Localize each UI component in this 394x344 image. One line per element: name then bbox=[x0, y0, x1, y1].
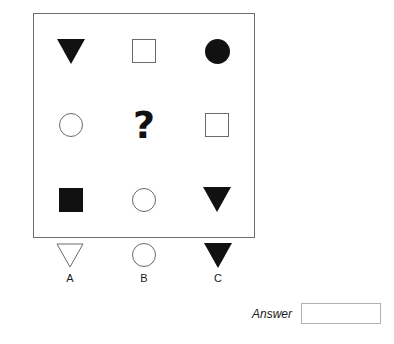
answer-options: A B C bbox=[33, 243, 255, 295]
option-b-label: B bbox=[140, 273, 147, 284]
matrix-cell-r2c1 bbox=[34, 88, 107, 162]
circle-filled-icon bbox=[205, 39, 230, 64]
triangle-down-filled-icon bbox=[203, 187, 231, 212]
circle-outline-icon bbox=[132, 188, 156, 212]
matrix-frame: ? bbox=[33, 13, 255, 238]
option-c[interactable]: C bbox=[181, 243, 255, 295]
question-mark-icon: ? bbox=[133, 106, 155, 144]
square-outline-icon bbox=[205, 113, 229, 137]
matrix-cell-r3c3 bbox=[181, 163, 254, 237]
matrix-cell-r1c1 bbox=[34, 14, 107, 88]
matrix-cell-r1c2 bbox=[107, 14, 180, 88]
option-a[interactable]: A bbox=[33, 243, 107, 295]
option-c-label: C bbox=[214, 273, 222, 284]
square-outline-icon bbox=[132, 39, 156, 63]
option-a-shape bbox=[56, 243, 84, 270]
option-b-shape bbox=[132, 243, 156, 270]
matrix-cell-r2c3 bbox=[181, 88, 254, 162]
matrix-grid: ? bbox=[34, 14, 254, 237]
circle-outline-icon bbox=[132, 243, 156, 267]
option-b[interactable]: B bbox=[107, 243, 181, 295]
square-filled-icon bbox=[59, 188, 83, 212]
matrix-cell-r3c1 bbox=[34, 163, 107, 237]
matrix-cell-r2c2: ? bbox=[107, 88, 180, 162]
circle-outline-icon bbox=[59, 113, 83, 137]
option-a-label: A bbox=[66, 273, 73, 284]
option-c-shape bbox=[204, 243, 232, 270]
matrix-cell-r1c3 bbox=[181, 14, 254, 88]
answer-row: Answer bbox=[252, 303, 381, 324]
triangle-down-filled-icon bbox=[57, 39, 85, 64]
answer-input[interactable] bbox=[301, 303, 381, 324]
answer-label: Answer bbox=[252, 307, 292, 321]
matrix-cell-r3c2 bbox=[107, 163, 180, 237]
triangle-down-filled-icon bbox=[204, 243, 232, 268]
triangle-down-outline-icon bbox=[56, 243, 84, 268]
